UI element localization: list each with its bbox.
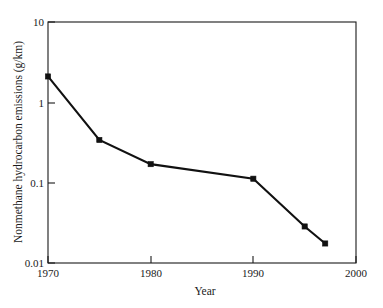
x-axis-title: Year <box>194 285 215 297</box>
chart-figure: 0.01 0.1 1 10 1970 1980 1990 2000 Year N… <box>0 0 383 308</box>
data-point-1970 <box>45 74 50 79</box>
plot-area-background <box>48 22 356 263</box>
data-point-1990 <box>251 176 256 181</box>
x-tick-label-1970: 1970 <box>37 267 60 279</box>
y-axis-title: Nonmethane hydrocarbon emissions (g/km) <box>12 41 25 243</box>
y-tick-label-0-1: 0.1 <box>30 177 44 189</box>
data-point-1975 <box>97 137 102 142</box>
line-chart: 0.01 0.1 1 10 1970 1980 1990 2000 Year N… <box>0 0 383 308</box>
y-tick-label-1: 1 <box>39 97 45 109</box>
data-point-1997 <box>323 241 328 246</box>
x-tick-label-1990: 1990 <box>242 267 265 279</box>
x-tick-label-2000: 2000 <box>345 267 368 279</box>
data-point-1995 <box>302 224 307 229</box>
x-tick-label-1980: 1980 <box>140 267 163 279</box>
data-point-1980 <box>148 162 153 167</box>
y-tick-label-10: 10 <box>33 16 45 28</box>
